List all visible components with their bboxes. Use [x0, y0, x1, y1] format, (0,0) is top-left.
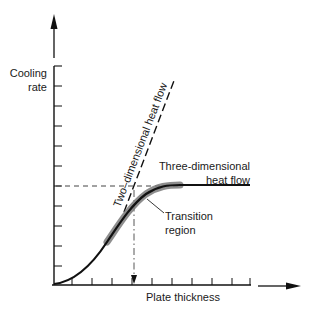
y-axis-label-line1: Cooling — [10, 67, 47, 79]
y-axis — [54, 66, 62, 285]
transition-label-line2: region — [165, 224, 196, 236]
transition-label-line1: Transition — [165, 210, 213, 222]
cooling-rate-diagram: Cooling rate Plate thickness Two–dimensi… — [0, 0, 311, 309]
three-dimensional-label-line2: heat flow — [206, 174, 250, 186]
y-axis-label-line2: rate — [28, 81, 47, 93]
x-axis-arrow — [258, 283, 301, 290]
x-axis-label: Plate thickness — [146, 291, 220, 303]
x-axis — [52, 278, 251, 285]
three-dimensional-label-line1: Three-dimensional — [159, 160, 250, 172]
cooling-rate-curve — [54, 185, 250, 284]
y-axis-arrow — [51, 14, 58, 58]
transition-leader-line — [147, 199, 164, 213]
